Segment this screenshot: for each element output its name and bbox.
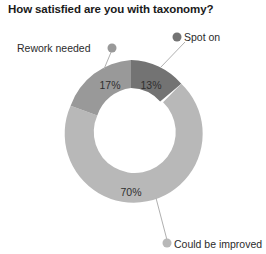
donut-chart: Spot on Rework needed Could be improved … [0, 0, 266, 254]
slice-value-could-be-improved: 70% [116, 186, 146, 198]
callout-label-could-be-improved: Could be improved [174, 238, 262, 250]
leader-line-could-be-improved [156, 198, 167, 240]
callout-label-rework-needed: Rework needed [17, 42, 91, 54]
slice-value-spot-on: 13% [136, 79, 166, 91]
donut-chart-svg [0, 0, 266, 254]
legend-dot-could-be-improved [163, 239, 172, 248]
legend-dot-rework-needed [108, 44, 117, 53]
leader-line-spot-on [160, 42, 185, 68]
slice-value-rework-needed: 17% [95, 79, 125, 91]
callout-label-spot-on: Spot on [184, 31, 220, 43]
legend-dot-spot-on [173, 33, 182, 42]
